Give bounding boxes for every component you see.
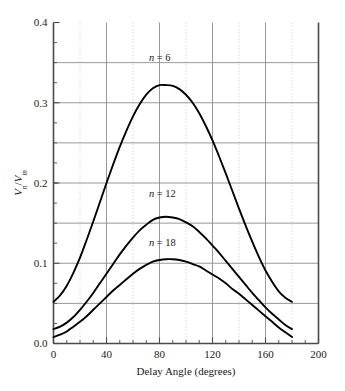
x-tick-label: 120 bbox=[204, 348, 221, 360]
chart-canvas: 04080120160200 0.00.10.20.30.4 n= 6n= 12… bbox=[0, 0, 345, 391]
x-axis-title: Delay Angle (degrees) bbox=[137, 365, 236, 378]
y-tick-label: 0.3 bbox=[34, 97, 48, 109]
curve-label-0: n= 6 bbox=[149, 52, 171, 63]
y-tick-label: 0.0 bbox=[34, 337, 48, 349]
data-curves bbox=[54, 85, 293, 337]
y-axis-title: Vn/Vm bbox=[12, 170, 29, 196]
y-axis-title-text: Vn/Vm bbox=[12, 170, 29, 196]
curve-label-text: n= 18 bbox=[149, 237, 176, 248]
x-tick-label: 0 bbox=[51, 348, 57, 360]
x-tick-label: 40 bbox=[101, 348, 113, 360]
x-tick-label: 160 bbox=[257, 348, 274, 360]
x-axis-title-text: Delay Angle (degrees) bbox=[137, 365, 236, 378]
y-tick-label: 0.1 bbox=[34, 257, 48, 269]
figure-container: 04080120160200 0.00.10.20.30.4 n= 6n= 12… bbox=[0, 0, 345, 391]
curve-label-text: n= 6 bbox=[149, 52, 171, 63]
curve-label-1: n= 12 bbox=[149, 188, 176, 199]
grid-horizontal bbox=[54, 63, 319, 304]
x-tick-labels: 04080120160200 bbox=[51, 348, 328, 360]
curve-label-2: n= 18 bbox=[149, 237, 176, 248]
x-tick-label: 80 bbox=[154, 348, 166, 360]
curve-label-text: n= 12 bbox=[149, 188, 176, 199]
x-tick-label: 200 bbox=[310, 348, 327, 360]
y-tick-label: 0.2 bbox=[34, 177, 48, 189]
y-tick-label: 0.4 bbox=[34, 16, 48, 28]
y-tick-labels: 0.00.10.20.30.4 bbox=[34, 16, 48, 349]
